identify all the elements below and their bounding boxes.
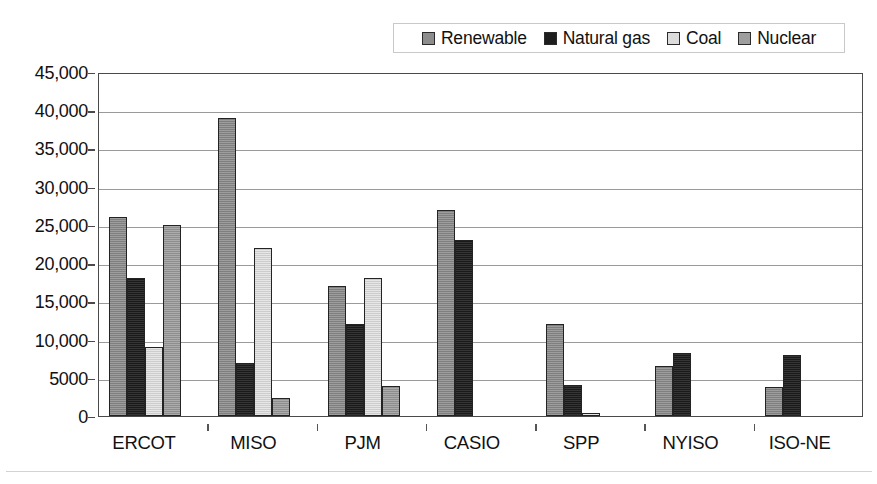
bar-miso-coal	[254, 248, 272, 416]
y-tick-label: 10,000	[35, 332, 88, 350]
bar-ercot-nuclear	[163, 225, 181, 416]
chart-legend: RenewableNatural gasCoalNuclear	[393, 23, 845, 53]
x-tick-mark	[317, 424, 318, 431]
y-tick-mark	[88, 111, 95, 112]
bar-pjm-natural-gas	[346, 324, 364, 416]
y-tick-label: 0	[78, 408, 88, 426]
x-tick-mark	[535, 424, 536, 431]
y-tick-label: 15,000	[35, 293, 88, 311]
x-tick-mark	[426, 424, 427, 431]
bar-nyiso-renewable	[655, 366, 673, 416]
gridline	[99, 303, 862, 304]
bar-spp-coal	[582, 413, 600, 416]
x-axis: ERCOTMISOPJMCASIOSPPNYISOISO-NE	[98, 424, 863, 458]
gridline	[99, 342, 862, 343]
gridline	[99, 112, 862, 113]
y-tick-mark	[88, 417, 95, 418]
legend-item-label: Renewable	[441, 30, 527, 47]
legend-item-label: Natural gas	[563, 30, 650, 47]
bar-spp-natural-gas	[564, 385, 582, 416]
bar-ercot-coal	[145, 347, 163, 416]
y-tick-label: 35,000	[35, 140, 88, 158]
legend-item-nuclear[interactable]: Nuclear	[738, 30, 816, 47]
gridline	[99, 150, 862, 151]
gridline	[99, 380, 862, 381]
y-tick-mark	[88, 149, 95, 150]
legend-item-label: Nuclear	[757, 30, 816, 47]
x-tick-label-nyiso: NYISO	[662, 433, 718, 453]
gridline	[99, 189, 862, 190]
gridline	[99, 227, 862, 228]
bar-pjm-renewable	[328, 286, 346, 416]
bar-ercot-natural-gas	[127, 278, 145, 416]
legend-item-natural-gas[interactable]: Natural gas	[544, 30, 650, 47]
y-tick-label: 40,000	[35, 102, 88, 120]
y-tick-label: 45,000	[35, 64, 88, 82]
legend-swatch-icon	[738, 32, 751, 45]
y-tick-label: 5000	[49, 370, 88, 388]
gridlines	[99, 74, 862, 416]
legend-item-coal[interactable]: Coal	[667, 30, 721, 47]
legend-swatch-icon	[667, 32, 680, 45]
x-tick-label-casio: CASIO	[444, 433, 500, 453]
x-tick-label-ercot: ERCOT	[112, 433, 175, 453]
bar-ercot-renewable	[109, 217, 127, 416]
y-axis: 0500010,00015,00020,00025,00030,00035,00…	[0, 73, 88, 417]
y-tick-mark	[88, 73, 95, 74]
gridline	[99, 265, 862, 266]
legend-item-renewable[interactable]: Renewable	[422, 30, 527, 47]
x-tick-label-pjm: PJM	[345, 433, 381, 453]
bar-miso-natural-gas	[236, 363, 254, 417]
y-tick-mark	[88, 379, 95, 380]
bar-spp-renewable	[546, 324, 564, 416]
bar-casio-natural-gas	[455, 240, 473, 416]
x-tick-mark	[644, 424, 645, 431]
legend-swatch-icon	[422, 32, 435, 45]
x-tick-mark	[207, 424, 208, 431]
y-tick-mark	[88, 264, 95, 265]
x-tick-label-iso-ne: ISO-NE	[769, 433, 831, 453]
bar-casio-renewable	[437, 210, 455, 416]
y-tick-label: 20,000	[35, 255, 88, 273]
bar-iso-ne-natural-gas	[783, 355, 801, 416]
chart-figure: RenewableNatural gasCoalNuclear 0500010,…	[0, 0, 877, 484]
x-tick-label-miso: MISO	[230, 433, 276, 453]
bar-miso-nuclear	[272, 398, 290, 416]
bar-pjm-coal	[364, 278, 382, 416]
bar-nyiso-natural-gas	[673, 353, 691, 416]
plot-area	[98, 73, 863, 417]
y-tick-mark	[88, 302, 95, 303]
bottom-divider	[6, 471, 872, 472]
y-tick-label: 30,000	[35, 179, 88, 197]
bar-miso-renewable	[218, 118, 236, 416]
legend-item-label: Coal	[686, 30, 721, 47]
y-tick-label: 25,000	[35, 217, 88, 235]
x-tick-label-spp: SPP	[563, 433, 599, 453]
y-tick-mark	[88, 341, 95, 342]
y-tick-mark	[88, 226, 95, 227]
y-tick-mark	[88, 188, 95, 189]
x-tick-mark	[754, 424, 755, 431]
legend-swatch-icon	[544, 32, 557, 45]
bar-pjm-nuclear	[382, 386, 400, 416]
bar-iso-ne-renewable	[765, 387, 783, 416]
